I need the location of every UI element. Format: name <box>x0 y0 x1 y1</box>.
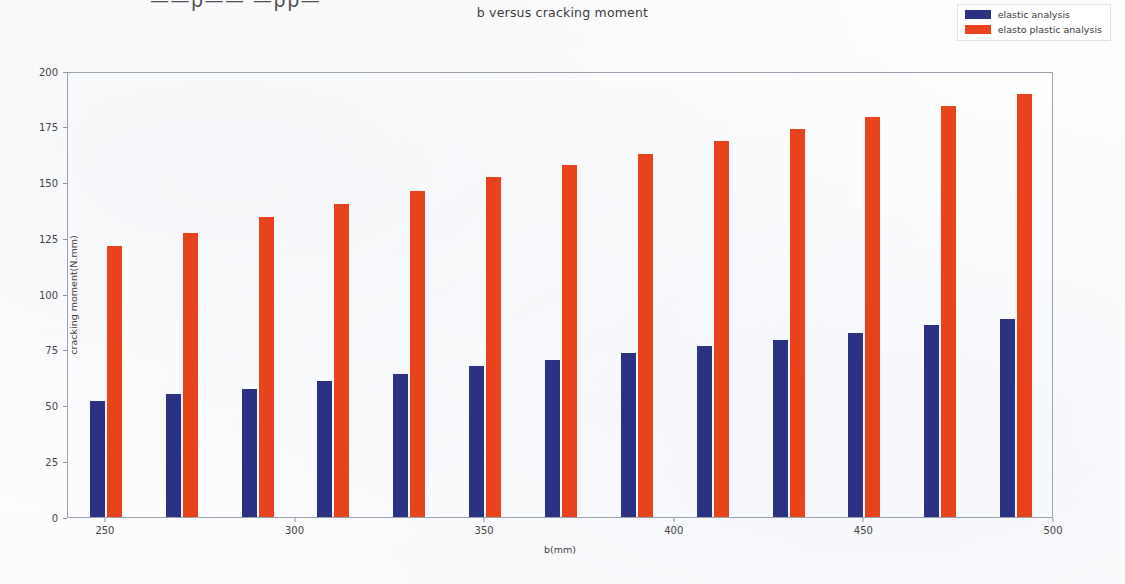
x-tick-label: 500 <box>1043 525 1062 536</box>
bar-elastic-analysis[interactable] <box>697 346 712 517</box>
bar-elastic-analysis[interactable] <box>848 333 863 517</box>
bar-elastic-analysis[interactable] <box>393 374 408 517</box>
y-tick-label: 200 <box>39 66 58 77</box>
x-tick: 400 <box>664 518 683 536</box>
bar-elasto-plastic-analysis[interactable] <box>183 233 198 517</box>
y-tick-label: 175 <box>39 122 58 133</box>
legend-label: elastic analysis <box>998 9 1070 20</box>
x-tick-label: 300 <box>285 525 304 536</box>
y-tick-label: 75 <box>45 345 58 356</box>
legend-item-elasto-plastic-analysis[interactable]: elasto plastic analysis <box>965 24 1102 35</box>
x-tick: 300 <box>285 518 304 536</box>
x-tick: 350 <box>475 518 494 536</box>
bar-elastic-analysis[interactable] <box>166 394 181 517</box>
bar-elasto-plastic-analysis[interactable] <box>259 217 274 517</box>
bar-elasto-plastic-analysis[interactable] <box>790 129 805 517</box>
x-tick-mark <box>484 518 485 522</box>
chart-legend: elastic analysis elasto plastic analysis <box>957 4 1111 41</box>
bar-elasto-plastic-analysis[interactable] <box>638 154 653 517</box>
bar-elastic-analysis[interactable] <box>469 366 484 517</box>
legend-swatch-icon <box>965 25 991 34</box>
x-tick-mark <box>863 518 864 522</box>
bar-elasto-plastic-analysis[interactable] <box>562 165 577 517</box>
bar-elasto-plastic-analysis[interactable] <box>714 141 729 517</box>
y-tick-label: 100 <box>39 289 58 300</box>
x-tick-label: 450 <box>854 525 873 536</box>
x-tick: 500 <box>1043 518 1062 536</box>
x-tick-mark <box>1053 518 1054 522</box>
bar-elastic-analysis[interactable] <box>773 340 788 517</box>
bar-elastic-analysis[interactable] <box>90 401 105 517</box>
x-axis-title: b(mm) <box>67 544 1053 555</box>
legend-label: elasto plastic analysis <box>998 24 1102 35</box>
bar-elasto-plastic-analysis[interactable] <box>1017 94 1032 517</box>
x-tick-mark <box>673 518 674 522</box>
x-tick-mark <box>294 518 295 522</box>
y-tick-label: 125 <box>39 233 58 244</box>
bar-elastic-analysis[interactable] <box>242 389 257 517</box>
bar-elasto-plastic-analysis[interactable] <box>486 177 501 517</box>
bar-elasto-plastic-analysis[interactable] <box>941 106 956 517</box>
legend-swatch-icon <box>965 10 991 19</box>
x-tick-label: 350 <box>475 525 494 536</box>
bar-elastic-analysis[interactable] <box>545 360 560 517</box>
y-axis: cracking moment(N.mm) 025507510012515017… <box>0 72 67 518</box>
y-tick-label: 25 <box>45 456 58 467</box>
bar-elasto-plastic-analysis[interactable] <box>107 246 122 517</box>
x-tick: 450 <box>854 518 873 536</box>
bar-elasto-plastic-analysis[interactable] <box>334 204 349 517</box>
bar-elastic-analysis[interactable] <box>317 381 332 517</box>
x-axis: 250300350400450500 b(mm) <box>67 518 1053 558</box>
x-tick-label: 250 <box>95 525 114 536</box>
plot-area <box>67 72 1053 518</box>
x-tick-mark <box>104 518 105 522</box>
bar-elastic-analysis[interactable] <box>1000 319 1015 517</box>
x-tick-label: 400 <box>664 525 683 536</box>
bar-elasto-plastic-analysis[interactable] <box>410 191 425 517</box>
y-tick-label: 150 <box>39 178 58 189</box>
bars-layer <box>68 73 1052 517</box>
bar-elasto-plastic-analysis[interactable] <box>865 117 880 517</box>
bar-elastic-analysis[interactable] <box>621 353 636 517</box>
y-tick-label: 50 <box>45 401 58 412</box>
x-tick: 250 <box>95 518 114 536</box>
bar-elastic-analysis[interactable] <box>924 325 939 517</box>
y-tick-label: 0 <box>52 512 58 523</box>
legend-item-elastic-analysis[interactable]: elastic analysis <box>965 9 1102 20</box>
